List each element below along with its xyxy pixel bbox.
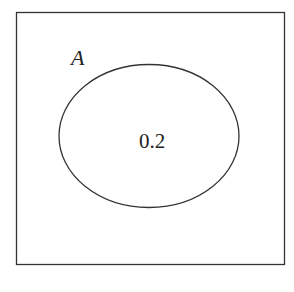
- set-a-label: A: [69, 45, 85, 70]
- set-a-value: 0.2: [139, 129, 165, 153]
- venn-diagram: A 0.2: [0, 0, 294, 292]
